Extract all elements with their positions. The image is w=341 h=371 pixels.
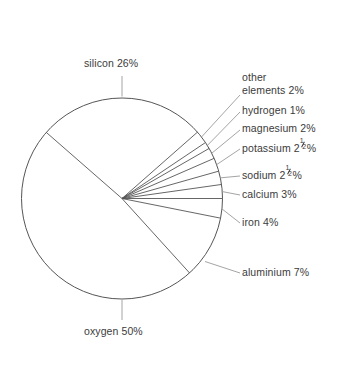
label-sodium-frac-denominator: 2: [288, 170, 292, 177]
label-potassium: potassium 212%: [242, 141, 316, 155]
label-sodium-percent: %: [292, 169, 301, 181]
label-sodium-name: sodium: [242, 169, 276, 181]
leader-magnesium: [212, 130, 240, 153]
label-magnesium: magnesium 2%: [242, 122, 316, 135]
label-other-elements-value: 2%: [288, 84, 303, 96]
label-magnesium-value: 2%: [300, 122, 315, 134]
leader-other-elements: [202, 95, 241, 137]
label-calcium: calcium 3%: [242, 188, 297, 201]
leader-aluminium: [205, 262, 240, 274]
label-hydrogen-name: hydrogen: [242, 104, 287, 116]
label-potassium-percent: %: [307, 142, 316, 154]
label-hydrogen-value: 1%: [290, 104, 305, 116]
label-silicon: silicon 26%: [84, 57, 138, 70]
label-aluminium-name: aluminium: [242, 266, 291, 278]
leader-calcium: [222, 192, 240, 196]
label-other-elements-name: elements: [242, 84, 285, 96]
leader-potassium: [216, 149, 240, 165]
leader-iron: [222, 209, 241, 224]
label-potassium-frac-denominator: 2: [302, 143, 306, 150]
leader-hydrogen: [207, 112, 240, 145]
leader-sodium: [220, 176, 240, 178]
label-iron-name: iron: [242, 216, 260, 228]
label-hydrogen: hydrogen 1%: [242, 104, 305, 117]
label-oxygen-text: oxygen 50%: [84, 325, 143, 337]
pie-chart-canvas: [0, 0, 341, 371]
label-calcium-name: calcium: [242, 188, 278, 200]
label-aluminium-value: 7%: [294, 266, 309, 278]
label-calcium-value: 3%: [281, 188, 296, 200]
label-iron: iron 4%: [242, 216, 278, 229]
label-aluminium: aluminium 7%: [242, 266, 309, 279]
label-magnesium-name: magnesium: [242, 122, 297, 134]
label-other-elements-line2: elements 2%: [242, 84, 304, 97]
label-other-elements: other elements 2%: [242, 71, 304, 97]
label-oxygen: oxygen 50%: [84, 325, 143, 338]
label-sodium-fraction: 12: [285, 168, 292, 179]
label-other-elements-line1: other: [242, 71, 304, 84]
label-sodium: sodium 212%: [242, 168, 302, 182]
label-silicon-text: silicon 26%: [84, 57, 138, 69]
pie-chart-figure: silicon 26% oxygen 50% other elements 2%…: [0, 0, 341, 371]
label-iron-value: 4%: [263, 216, 278, 228]
label-potassium-fraction: 12: [300, 141, 307, 152]
label-potassium-name: potassium: [242, 142, 291, 154]
